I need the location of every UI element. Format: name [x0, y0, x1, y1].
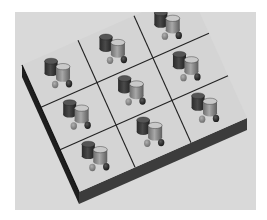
small-knob-light — [125, 98, 131, 105]
light-cylinder — [56, 64, 70, 82]
dark-cylinder — [118, 76, 131, 94]
small-knob-light — [89, 164, 95, 171]
light-cylinder — [111, 39, 125, 57]
small-knob-light — [52, 81, 58, 88]
light-cylinder — [93, 146, 107, 164]
dark-cylinder — [99, 34, 112, 52]
dark-cylinder — [137, 117, 150, 135]
light-cylinder — [166, 15, 180, 33]
small-knob-dark — [176, 32, 182, 39]
small-knob-dark — [66, 80, 72, 87]
small-knob-dark — [158, 139, 164, 146]
small-knob-light — [180, 74, 186, 81]
small-knob-dark — [103, 163, 109, 170]
small-knob-dark — [194, 73, 200, 80]
small-knob-dark — [139, 97, 145, 104]
light-cylinder — [148, 122, 162, 140]
small-knob-dark — [121, 56, 127, 63]
light-cylinder — [75, 105, 89, 123]
small-knob-light — [162, 32, 168, 39]
dark-cylinder — [63, 100, 76, 118]
dark-cylinder — [154, 10, 167, 28]
dark-cylinder — [192, 93, 205, 111]
small-knob-light — [107, 57, 113, 64]
small-knob-light — [199, 115, 205, 122]
light-cylinder — [130, 81, 144, 99]
light-cylinder — [184, 57, 198, 75]
small-knob-dark — [213, 115, 219, 122]
small-knob-dark — [84, 122, 90, 129]
dark-cylinder — [45, 58, 58, 76]
dark-cylinder — [82, 141, 95, 159]
light-cylinder — [203, 98, 217, 116]
dark-cylinder — [173, 51, 186, 69]
small-knob-light — [144, 140, 150, 147]
small-knob-light — [71, 122, 77, 129]
board-scene — [0, 0, 267, 220]
